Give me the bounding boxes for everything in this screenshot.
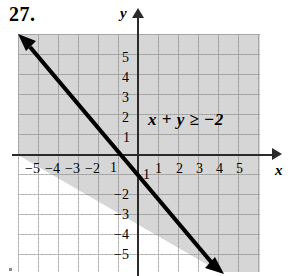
inequality-annotation: x + y ≥ −2 [148,110,224,130]
scan-speck [9,268,12,271]
boundary-line [0,0,292,276]
coordinate-graph: x y −5−4−3−2112345 543211−2−3−4−5 x + y … [0,0,292,276]
boundary-line-segment [30,47,212,263]
